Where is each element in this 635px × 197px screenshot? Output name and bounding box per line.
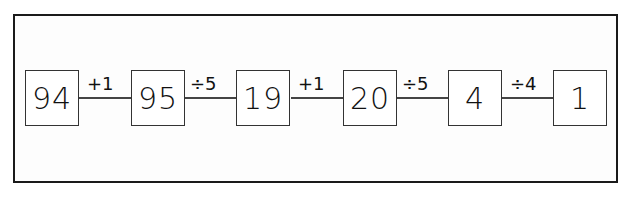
connector-line	[291, 97, 343, 99]
operation-label-5: ÷4	[510, 73, 537, 94]
value-box-2: 95	[131, 70, 185, 126]
connector-line	[185, 97, 236, 99]
operation-label-1: +1	[87, 73, 114, 94]
connector-line	[79, 97, 131, 99]
value-box-1: 94	[25, 70, 79, 126]
value-box-6: 1	[553, 70, 607, 126]
connector-line	[397, 97, 448, 99]
operation-label-2: ÷5	[190, 73, 217, 94]
operation-label-3: +1	[298, 73, 325, 94]
operation-label-4: ÷5	[402, 73, 429, 94]
value-box-3: 19	[236, 70, 290, 126]
value-box-4: 20	[343, 70, 397, 126]
value-box-5: 4	[448, 70, 502, 126]
diagram-frame	[13, 14, 618, 183]
connector-line	[502, 97, 553, 99]
